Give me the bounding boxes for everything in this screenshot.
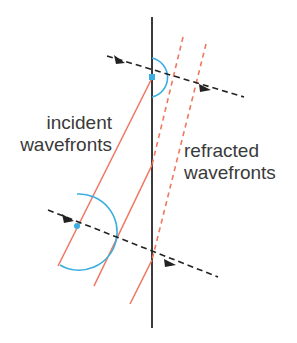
ray-bottom [48, 210, 218, 277]
arrow-icon [62, 214, 74, 223]
incident-label-line1: incident [8, 112, 112, 134]
incident-label: incident wavefronts [8, 112, 112, 156]
incidence-point-top [149, 74, 155, 80]
refracted-wavefront-1 [152, 37, 183, 165]
refracted-label-line1: refracted [184, 140, 294, 162]
incident-wavefront-2 [94, 165, 152, 286]
incident-wavefront-3 [130, 260, 152, 304]
ray-top [107, 56, 244, 97]
arrow-icon [114, 55, 125, 64]
refracted-label: refracted wavefronts [184, 140, 294, 184]
refracted-label-line2: wavefronts [184, 162, 294, 184]
incident-label-line2: wavefronts [8, 134, 112, 156]
incident-wavefront-1 [58, 78, 152, 266]
incidence-point-bottom [74, 223, 80, 229]
